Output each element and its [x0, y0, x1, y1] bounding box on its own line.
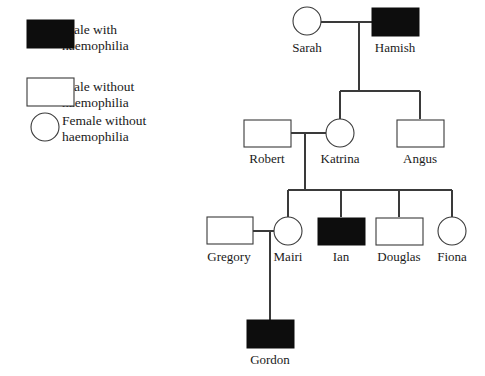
individual-label-mairi: Mairi — [274, 249, 303, 264]
legend-symbol-open-square — [27, 78, 74, 106]
individual-label-katrina: Katrina — [321, 151, 360, 166]
individual-symbol-mairi[interactable] — [274, 217, 302, 245]
individual-label-ian: Ian — [333, 249, 350, 264]
pedigree-chart-page: Male with haemophilia Male without haemo… — [0, 0, 485, 376]
legend-symbol-filled-square — [27, 20, 74, 48]
individual-label-douglas: Douglas — [377, 249, 420, 264]
individual-symbol-ian[interactable] — [318, 218, 365, 245]
individual-symbol-hamish[interactable] — [372, 8, 419, 36]
individual-label-angus: Angus — [403, 151, 437, 166]
individual-symbol-fiona[interactable] — [438, 217, 466, 245]
individual-label-fiona: Fiona — [437, 249, 467, 264]
individual-symbol-douglas[interactable] — [376, 218, 423, 245]
individual-symbol-robert[interactable] — [244, 120, 291, 147]
individual-symbol-gregory[interactable] — [207, 217, 253, 244]
individual-symbol-angus[interactable] — [397, 120, 444, 147]
individual-label-gordon: Gordon — [250, 352, 290, 367]
individual-symbol-katrina[interactable] — [326, 119, 354, 147]
legend-symbol-open-circle — [31, 113, 59, 141]
individual-label-sarah: Sarah — [292, 40, 322, 55]
individual-symbol-sarah[interactable] — [293, 7, 321, 35]
individual-symbol-gordon[interactable] — [247, 320, 294, 348]
individual-label-gregory: Gregory — [207, 249, 251, 264]
individual-label-hamish: Hamish — [375, 40, 416, 55]
individual-label-robert: Robert — [249, 151, 285, 166]
